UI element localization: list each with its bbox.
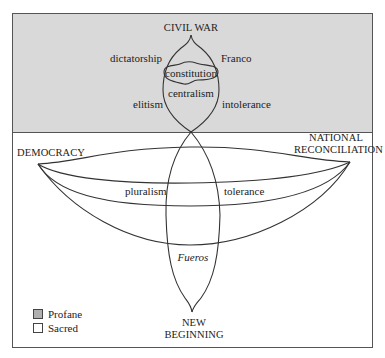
node-democracy: DEMOCRACY xyxy=(17,147,85,159)
label-tolerance: tolerance xyxy=(224,185,264,197)
upper-lens-right xyxy=(191,35,219,132)
label-dictatorship: dictatorship xyxy=(110,52,162,64)
bowl-inner-lower xyxy=(38,162,350,206)
node-national-line2: RECONCILIATION xyxy=(294,144,368,156)
bowl-middle xyxy=(38,162,350,183)
node-new-beginning: NEW BEGINNING xyxy=(164,317,223,341)
profane-swatch-icon xyxy=(33,309,43,319)
legend-label-sacred: Sacred xyxy=(48,322,78,334)
label-fueros: Fueros xyxy=(178,251,209,263)
label-centralism: centralism xyxy=(168,87,214,99)
legend-item-sacred: Sacred xyxy=(33,321,82,335)
diagram-curves xyxy=(0,0,385,358)
node-national-line1: NATIONAL xyxy=(304,132,368,144)
legend-item-profane: Profane xyxy=(33,307,82,321)
node-new-line2: BEGINNING xyxy=(164,329,223,341)
lower-lens-left xyxy=(166,132,192,312)
lower-lens-right xyxy=(191,132,220,312)
node-new-line1: NEW xyxy=(164,317,223,329)
sacred-swatch-icon xyxy=(33,323,43,333)
label-constitution: constitution xyxy=(165,67,217,79)
label-elitism: elitism xyxy=(133,98,163,110)
legend: Profane Sacred xyxy=(33,307,82,335)
legend-label-profane: Profane xyxy=(48,308,82,320)
label-franco: Franco xyxy=(221,52,252,64)
node-national-reconciliation: NATIONAL RECONCILIATION xyxy=(304,132,368,156)
node-civil-war: CIVIL WAR xyxy=(164,22,218,34)
label-intolerance: intolerance xyxy=(222,98,271,110)
label-pluralism: pluralism xyxy=(125,185,167,197)
